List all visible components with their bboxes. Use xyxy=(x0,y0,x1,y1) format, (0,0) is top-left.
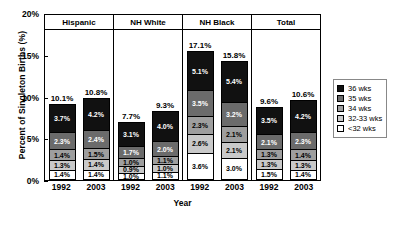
bar-segment-label: 1.5% xyxy=(261,171,277,178)
bar-segment-label: 1.0% xyxy=(157,165,173,172)
bar-total-label: 10.8% xyxy=(85,88,108,97)
x-axis-tick-labels: 19922003199220031992200319922003 xyxy=(44,182,321,198)
stacked-bar[interactable]: 4.0%2.0%1.1%1.0%1.1% xyxy=(152,111,179,180)
bar-total-label: 9.3% xyxy=(156,101,174,110)
bar-column[interactable]: 10.8%4.2%2.4%1.5%1.4%1.4% xyxy=(83,30,110,180)
bar-segment: 1.4% xyxy=(50,170,75,180)
bar-column[interactable]: 7.7%3.1%1.7%1.0%0.9%1.0% xyxy=(118,30,145,180)
stacked-bar[interactable]: 5.1%3.5%2.3%2.6%3.6% xyxy=(187,51,214,180)
bar-segment-label: 2.0% xyxy=(157,146,173,153)
bar-segment: 3.6% xyxy=(188,153,213,180)
x-axis-tick-label: 1992 xyxy=(186,182,213,198)
bar-segment-label: 1.3% xyxy=(261,151,277,158)
x-axis-tick-label: 2003 xyxy=(221,182,248,198)
legend-swatch-icon xyxy=(337,95,344,102)
stacked-bar[interactable]: 3.7%2.3%1.4%1.3%1.4% xyxy=(49,104,76,180)
bar-segment-label: 4.2% xyxy=(295,113,311,120)
bar-segment-label: 1.7% xyxy=(123,149,139,156)
bar-segment-label: 4.0% xyxy=(157,123,173,130)
bar-total-label: 10.1% xyxy=(51,94,74,103)
bar-segment: 1.4% xyxy=(291,170,316,180)
bar-segment: 2.1% xyxy=(222,142,247,158)
bar-column[interactable]: 15.8%5.4%3.2%2.1%2.1%3.0% xyxy=(221,30,248,180)
bar-segment: 2.3% xyxy=(188,116,213,133)
bar-segment-label: 2.1% xyxy=(261,139,277,146)
bar-segment: 2.3% xyxy=(291,132,316,149)
x-axis-tick-label: 2003 xyxy=(152,182,179,198)
bar-segment-label: 4.2% xyxy=(88,111,104,118)
legend-item[interactable]: 36 wks xyxy=(337,84,382,93)
bar-group: 7.7%3.1%1.7%1.0%0.9%1.0%9.3%4.0%2.0%1.1%… xyxy=(114,30,183,180)
bar-segment-label: 1.0% xyxy=(123,173,139,180)
y-axis-tick-label: 10% xyxy=(5,93,39,103)
y-axis-tick-label: 15% xyxy=(5,51,39,61)
legend-swatch-icon xyxy=(337,125,344,132)
bar-segment: 4.0% xyxy=(153,112,178,142)
bar-segment: 1.3% xyxy=(257,149,282,159)
stacked-bar[interactable]: 4.2%2.3%1.4%1.3%1.4% xyxy=(290,100,317,180)
bar-total-label: 17.1% xyxy=(189,41,212,50)
legend: 36 wks35 wks34 wks32-33 wks<32 wks xyxy=(333,79,387,138)
group-header-total: Total xyxy=(252,15,320,29)
bar-column[interactable]: 9.3%4.0%2.0%1.1%1.0%1.1% xyxy=(152,30,179,180)
stacked-bar[interactable]: 4.2%2.4%1.5%1.4%1.4% xyxy=(83,98,110,180)
bar-group: 9.6%3.5%2.1%1.3%1.3%1.5%10.6%4.2%2.3%1.4… xyxy=(252,30,320,180)
legend-item[interactable]: 35 wks xyxy=(337,94,382,103)
bar-segment-label: 3.5% xyxy=(261,117,277,124)
bar-segment-label: 1.0% xyxy=(123,159,139,166)
bar-segment-label: 3.6% xyxy=(192,163,208,170)
bar-segment-label: 1.4% xyxy=(54,171,70,178)
bar-segment-label: 2.1% xyxy=(226,147,242,154)
bar-segment-label: 1.4% xyxy=(88,171,104,178)
x-axis-tick-label: 2003 xyxy=(290,182,317,198)
legend-item[interactable]: 32-33 wks xyxy=(337,114,382,123)
bar-segment-label: 3.7% xyxy=(54,115,70,122)
stacked-bar[interactable]: 3.1%1.7%1.0%0.9%1.0% xyxy=(118,122,145,180)
x-axis-tick-label: 1992 xyxy=(256,182,283,198)
x-axis-group: 19922003 xyxy=(113,182,182,198)
bar-column[interactable]: 10.6%4.2%2.3%1.4%1.3%1.4% xyxy=(290,30,317,180)
y-axis-tick-label: 5% xyxy=(5,134,39,144)
x-axis-group: 19922003 xyxy=(183,182,252,198)
bar-segment: 2.6% xyxy=(188,134,213,153)
y-axis-tick-label: 0% xyxy=(5,176,39,186)
x-axis-tick-label: 1992 xyxy=(48,182,75,198)
bar-segment: 0.9% xyxy=(119,166,144,173)
bar-column[interactable]: 9.6%3.5%2.1%1.3%1.3%1.5% xyxy=(256,30,283,180)
bar-segment: 3.2% xyxy=(222,102,247,126)
x-axis-tick-label: 2003 xyxy=(82,182,109,198)
bar-segment: 3.1% xyxy=(119,123,144,146)
bar-column[interactable]: 10.1%3.7%2.3%1.4%1.3%1.4% xyxy=(49,30,76,180)
bar-segment: 3.0% xyxy=(222,158,247,180)
bar-segment: 1.1% xyxy=(153,156,178,164)
bar-segment-label: 1.4% xyxy=(295,152,311,159)
bar-segment: 3.5% xyxy=(257,108,282,134)
stacked-bar[interactable]: 5.4%3.2%2.1%2.1%3.0% xyxy=(221,61,248,180)
bar-segment: 1.3% xyxy=(291,160,316,170)
bar-total-label: 10.6% xyxy=(292,90,315,99)
legend-item[interactable]: 34 wks xyxy=(337,104,382,113)
legend-label: 34 wks xyxy=(348,104,371,113)
legend-item[interactable]: <32 wks xyxy=(337,124,382,133)
y-axis-tick-label: 20% xyxy=(5,9,39,19)
legend-label: <32 wks xyxy=(348,124,376,133)
y-axis-ticks: 0%5%10%15%20% xyxy=(5,0,39,232)
bar-groups: 10.1%3.7%2.3%1.4%1.3%1.4%10.8%4.2%2.4%1.… xyxy=(45,30,320,180)
bar-segment-label: 2.3% xyxy=(54,138,70,145)
legend-label: 36 wks xyxy=(348,84,371,93)
bar-segment-label: 2.3% xyxy=(295,138,311,145)
bar-segment: 1.5% xyxy=(84,148,109,159)
plot-area: HispanicNH WhiteNH BlackTotal 10.1%3.7%2… xyxy=(44,14,321,181)
bar-segment-label: 1.4% xyxy=(88,161,104,168)
stacked-bar[interactable]: 3.5%2.1%1.3%1.3%1.5% xyxy=(256,107,283,180)
x-axis-group: 19922003 xyxy=(252,182,321,198)
bar-segment: 4.2% xyxy=(291,101,316,132)
bar-segment: 1.3% xyxy=(50,160,75,170)
bar-segment: 1.4% xyxy=(84,170,109,180)
bar-segment-label: 5.1% xyxy=(192,68,208,75)
group-header-nh-black: NH Black xyxy=(183,15,252,29)
bar-segment: 1.0% xyxy=(119,173,144,180)
bar-segment: 1.4% xyxy=(84,159,109,169)
bar-column[interactable]: 17.1%5.1%3.5%2.3%2.6%3.6% xyxy=(187,30,214,180)
bar-segment-label: 3.1% xyxy=(123,131,139,138)
